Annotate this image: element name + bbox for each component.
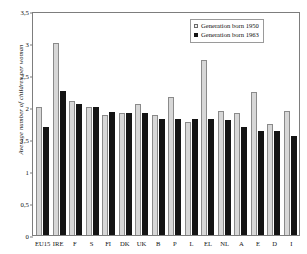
bar-group xyxy=(168,13,181,235)
bar-eu15-series1 xyxy=(36,107,42,235)
bar-l-series1 xyxy=(185,122,191,235)
bar-a-series2 xyxy=(241,127,247,235)
x-tick-label: EL xyxy=(202,238,215,252)
open-square-icon xyxy=(194,24,198,28)
x-tick-label: NL xyxy=(218,238,231,252)
bar-nl-series2 xyxy=(225,120,231,235)
bar-i-series2 xyxy=(291,136,297,235)
bar-group xyxy=(218,13,231,235)
bar-el-series2 xyxy=(208,119,214,235)
x-tick-label: DK xyxy=(118,238,131,252)
bar-group xyxy=(251,13,264,235)
legend-item-1963: Generation born 1963 xyxy=(194,31,259,39)
legend-label-1950: Generation born 1950 xyxy=(201,22,259,30)
bar-s-series1 xyxy=(86,107,92,235)
bar-dk-series1 xyxy=(119,113,125,235)
bar-d-series1 xyxy=(267,124,273,235)
bar-group xyxy=(53,13,66,235)
bar-s-series2 xyxy=(93,107,99,235)
x-axis-labels: EU15IREFSFIDKUKBPLELNLAEDI xyxy=(32,238,300,252)
chart-legend: Generation born 1950 Generation born 196… xyxy=(190,19,264,43)
bar-group xyxy=(185,13,198,235)
x-tick-label: FI xyxy=(102,238,115,252)
bar-d-series2 xyxy=(274,131,280,235)
fertility-bar-chart: Average number of children per woman 3,5… xyxy=(0,0,307,254)
y-axis-title: Average number of children per woman xyxy=(17,20,24,180)
filled-square-icon xyxy=(194,33,198,37)
bar-group xyxy=(234,13,247,235)
bar-a-series1 xyxy=(234,113,240,235)
bar-i-series1 xyxy=(284,111,290,235)
x-tick-label: E xyxy=(252,238,265,252)
bars-layer xyxy=(33,13,299,235)
bar-fi-series1 xyxy=(102,115,108,235)
bar-group xyxy=(86,13,99,235)
bar-group xyxy=(69,13,82,235)
bar-eu15-series2 xyxy=(43,127,49,235)
x-tick-label: F xyxy=(68,238,81,252)
bar-group xyxy=(284,13,297,235)
x-tick-label: IRE xyxy=(52,238,65,252)
legend-label-1963: Generation born 1963 xyxy=(201,31,259,39)
bar-e-series2 xyxy=(258,131,264,235)
bar-group xyxy=(119,13,132,235)
bar-b-series1 xyxy=(152,115,158,235)
bar-ire-series2 xyxy=(60,91,66,235)
bar-e-series1 xyxy=(251,92,257,235)
bar-uk-series1 xyxy=(135,104,141,235)
bar-p-series1 xyxy=(168,97,174,235)
x-tick-label: UK xyxy=(135,238,148,252)
bar-fi-series2 xyxy=(109,112,115,235)
bar-l-series2 xyxy=(192,119,198,235)
x-tick-label: A xyxy=(235,238,248,252)
bar-group xyxy=(152,13,165,235)
x-tick-label: P xyxy=(168,238,181,252)
bar-b-series2 xyxy=(159,119,165,235)
bar-group xyxy=(102,13,115,235)
bar-el-series1 xyxy=(201,60,207,235)
bar-dk-series2 xyxy=(126,113,132,235)
x-tick-label: S xyxy=(85,238,98,252)
bar-group xyxy=(135,13,148,235)
bar-f-series1 xyxy=(69,101,75,235)
legend-item-1950: Generation born 1950 xyxy=(194,22,259,30)
bar-group xyxy=(201,13,214,235)
bar-p-series2 xyxy=(175,119,181,235)
x-tick-label: L xyxy=(185,238,198,252)
x-tick-label: EU15 xyxy=(35,238,48,252)
bar-nl-series1 xyxy=(218,111,224,235)
bar-group xyxy=(267,13,280,235)
x-tick-label: I xyxy=(285,238,298,252)
bar-ire-series1 xyxy=(53,43,59,235)
bar-uk-series2 xyxy=(142,113,148,235)
plot-area: 3,532,521,510,50 xyxy=(32,12,300,236)
x-tick-label: B xyxy=(152,238,165,252)
x-tick-label: D xyxy=(268,238,281,252)
bar-group xyxy=(36,13,49,235)
bar-f-series2 xyxy=(76,104,82,235)
